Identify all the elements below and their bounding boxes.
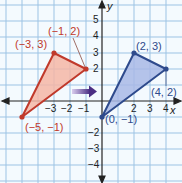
x-axis-label: x [170, 104, 176, 116]
x-tick: 4 [163, 104, 169, 114]
vertex-label: (−5, −1) [25, 121, 64, 133]
x-tick: 3 [147, 104, 153, 114]
vertex-point [163, 66, 168, 71]
x-axis-left-arrow-icon [2, 98, 9, 104]
vertex-point [19, 114, 24, 119]
y-tick: 2 [93, 64, 99, 74]
vertex-label: (2, 3) [136, 40, 162, 52]
vertex-label: (4, 2) [151, 86, 177, 98]
vertex-label: (−3, 3) [15, 38, 47, 50]
x-tick: −2 [61, 104, 72, 114]
coordinate-plane: y x −3 −2 −1 2 3 4 5 4 3 2 −2 −3 −4 (−3,… [0, 0, 182, 183]
y-axis-label: y [107, 0, 113, 12]
y-tick: 5 [93, 15, 99, 25]
vertex-label: (−1, 2) [48, 25, 80, 37]
y-axis-down-arrow-icon [99, 176, 105, 183]
y-tick: 3 [93, 48, 99, 58]
y-axis-up-arrow-icon [99, 1, 105, 8]
vertex-point [51, 50, 56, 55]
y-tick: −4 [88, 160, 99, 170]
x-tick: −1 [78, 104, 89, 114]
x-tick: −3 [45, 104, 56, 114]
vertex-point [99, 114, 104, 119]
y-tick: −2 [88, 128, 99, 138]
y-tick: −3 [88, 144, 99, 154]
vertex-label: (0, −1) [105, 113, 137, 125]
vertex-point [83, 66, 88, 71]
y-tick: 4 [93, 31, 99, 41]
translation-arrow-icon [72, 86, 97, 98]
